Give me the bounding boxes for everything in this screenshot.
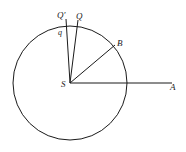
- segment-SQprime: [66, 19, 70, 83]
- label-S: S: [61, 80, 66, 89]
- circle-diagram: [0, 0, 186, 152]
- label-B: B: [117, 39, 123, 48]
- segment-SB: [70, 45, 115, 83]
- label-A: A: [170, 83, 176, 92]
- label-Q: Q: [76, 12, 83, 21]
- label-Q-prime: Q′: [57, 11, 65, 20]
- segment-SQ: [70, 20, 78, 83]
- label-q: q: [58, 29, 62, 37]
